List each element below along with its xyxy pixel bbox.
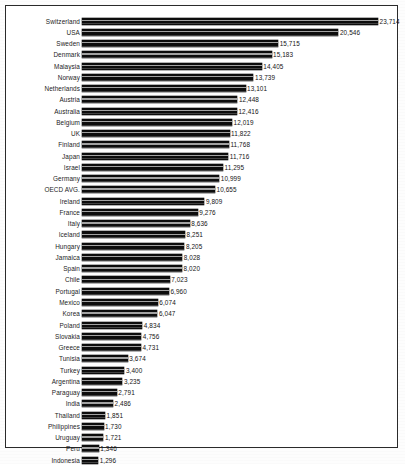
bar-fill <box>82 141 229 148</box>
bar-chart-row: UK11,822 <box>6 128 399 139</box>
bar <box>82 355 128 362</box>
bar-fill <box>82 412 105 419</box>
value-label: 11,768 <box>230 139 250 150</box>
bar-chart-row: Ireland9,809 <box>6 196 399 207</box>
bar-fill <box>82 400 113 407</box>
category-label: Philippines <box>0 421 80 432</box>
category-label: Greece <box>0 342 80 353</box>
bar-fill <box>82 164 223 171</box>
bar-chart-row: Australia12,416 <box>6 106 399 117</box>
bar <box>82 288 169 295</box>
category-label: Uruguay <box>0 432 80 443</box>
bar <box>82 40 278 47</box>
category-label: Netherlands <box>0 83 80 94</box>
bar-fill <box>82 85 246 92</box>
bar-fill <box>82 445 99 452</box>
bar-chart-row: Iceland8,251 <box>6 229 399 240</box>
bar <box>82 96 237 103</box>
value-label: 12,416 <box>238 106 258 117</box>
bar-chart-row: Indonesia1,296 <box>6 455 399 466</box>
bar <box>82 423 104 430</box>
category-label: Hungary <box>0 241 80 252</box>
bar <box>82 378 122 385</box>
value-label: 8,020 <box>184 263 201 274</box>
bar-chart-row: Spain8,020 <box>6 263 399 274</box>
category-label: Italy <box>0 218 80 229</box>
bar <box>82 344 141 351</box>
bar-chart-row: France9,276 <box>6 207 399 218</box>
category-label: Tunisia <box>0 353 80 364</box>
value-label: 11,716 <box>230 151 250 162</box>
value-label: 4,731 <box>143 342 160 353</box>
bar <box>82 276 170 283</box>
value-label: 1,296 <box>100 455 117 466</box>
category-label: Ireland <box>0 196 80 207</box>
bar-fill <box>82 344 141 351</box>
bar-fill <box>82 457 98 464</box>
bar-chart-row: Malaysia14,405 <box>6 61 399 72</box>
bar-fill <box>82 96 237 103</box>
bar <box>82 63 262 70</box>
category-label: OECD AVG. <box>0 184 80 195</box>
bar-fill <box>82 51 272 58</box>
bar-fill <box>82 378 122 385</box>
bar <box>82 186 215 193</box>
bar-fill <box>82 18 378 25</box>
bar-chart-row: Austria12,448 <box>6 94 399 105</box>
category-label: Japan <box>0 151 80 162</box>
bar-fill <box>82 74 253 81</box>
bar <box>82 74 253 81</box>
bar <box>82 231 185 238</box>
bar <box>82 367 124 374</box>
bar <box>82 18 378 25</box>
category-label: Korea <box>0 308 80 319</box>
category-label: Peru <box>0 443 80 454</box>
value-label: 10,999 <box>221 173 241 184</box>
bar-chart-row: Norway13,739 <box>6 72 399 83</box>
value-label: 11,822 <box>231 128 251 139</box>
value-label: 7,023 <box>171 274 188 285</box>
bar-fill <box>82 322 142 329</box>
value-label: 12,448 <box>239 94 259 105</box>
bar-chart-row: Jamaica8,028 <box>6 252 399 263</box>
bar <box>82 130 230 137</box>
category-label: Germany <box>0 173 80 184</box>
category-label: Australia <box>0 106 80 117</box>
bar-fill <box>82 389 117 396</box>
bar-fill <box>82 63 262 70</box>
bar-fill <box>82 119 232 126</box>
chart-frame: Switzerland23,714USA20,546Sweden15,715De… <box>5 5 398 448</box>
category-label: Indonesia <box>0 455 80 466</box>
value-label: 1,721 <box>105 432 122 443</box>
bar-fill <box>82 276 170 283</box>
category-label: USA <box>0 27 80 38</box>
bar <box>82 29 338 36</box>
value-label: 1,730 <box>105 421 122 432</box>
category-label: Sweden <box>0 38 80 49</box>
bar <box>82 412 105 419</box>
bar <box>82 310 157 317</box>
bar-chart-row: Peru1,346 <box>6 443 399 454</box>
category-label: Malaysia <box>0 61 80 72</box>
bar-chart-row: Korea6,047 <box>6 308 399 319</box>
value-label: 2,486 <box>115 398 132 409</box>
bar-fill <box>82 310 157 317</box>
category-label: Portugal <box>0 286 80 297</box>
bar-fill <box>82 29 338 36</box>
bar-fill <box>82 254 182 261</box>
bar-fill <box>82 434 103 441</box>
bar <box>82 445 99 452</box>
value-label: 14,405 <box>263 61 283 72</box>
bar <box>82 209 198 216</box>
bar-chart-row: Philippines1,730 <box>6 421 399 432</box>
bar-chart-row: Italy8,636 <box>6 218 399 229</box>
bar <box>82 389 117 396</box>
category-label: Slovakia <box>0 331 80 342</box>
bar <box>82 333 141 340</box>
category-label: Mexico <box>0 297 80 308</box>
bar-fill <box>82 220 190 227</box>
bar-fill <box>82 288 169 295</box>
bar-chart-row: Mexico6,074 <box>6 297 399 308</box>
category-label: Finland <box>0 139 80 150</box>
bar-fill <box>82 186 215 193</box>
